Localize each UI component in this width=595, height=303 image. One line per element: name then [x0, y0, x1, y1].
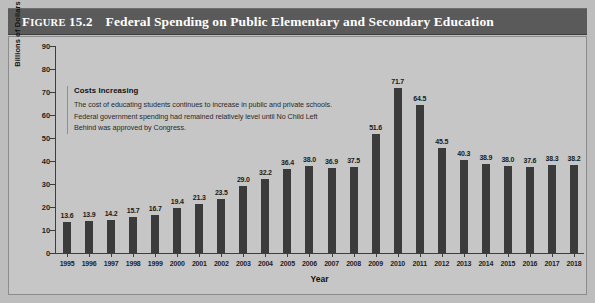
y-tick-label: 40 [10, 157, 50, 166]
bar [195, 204, 203, 253]
y-tick [50, 46, 55, 47]
figure-number-value: 15.2 [69, 14, 93, 29]
figure-title-bar: FIGURE 15.2 Federal Spending on Public E… [8, 8, 587, 35]
bar-value-label: 32.2 [252, 169, 278, 176]
x-tick [574, 253, 575, 257]
y-tick [50, 92, 55, 93]
x-tick [508, 253, 509, 257]
x-tick [309, 253, 310, 257]
bar-value-label: 16.7 [142, 205, 168, 212]
y-tick-label: 80 [10, 65, 50, 74]
x-tick [265, 253, 266, 257]
x-tick [89, 253, 90, 257]
bar [283, 169, 291, 253]
y-tick-label: 70 [10, 88, 50, 97]
bar-value-label: 64.5 [407, 95, 433, 102]
plot-area: Billions of Dollars Year 010203040506070… [55, 46, 584, 287]
bar-value-label: 71.7 [385, 78, 411, 85]
figure-number-word-first: F [22, 14, 30, 29]
y-tick-label: 0 [10, 249, 50, 258]
x-tick [332, 253, 333, 257]
chart-frame: Costs Increasing The cost of educating s… [8, 36, 587, 295]
y-tick-label: 90 [10, 42, 50, 51]
bar [416, 105, 424, 253]
bar [151, 215, 159, 253]
bar [217, 199, 225, 253]
x-tick [354, 253, 355, 257]
x-tick [530, 253, 531, 257]
bar [372, 134, 380, 253]
x-tick-label: 2018 [561, 260, 587, 267]
bar [482, 164, 490, 253]
bar [63, 222, 71, 253]
x-tick [155, 253, 156, 257]
bar [305, 166, 313, 253]
x-axis-title: Year [55, 274, 584, 284]
x-tick [133, 253, 134, 257]
y-tick [50, 161, 55, 162]
x-tick [199, 253, 200, 257]
y-tick [50, 230, 55, 231]
bar [438, 148, 446, 253]
bar [504, 166, 512, 253]
bar-value-label: 45.5 [429, 138, 455, 145]
bar-value-label: 38.2 [561, 155, 587, 162]
bar [394, 88, 402, 253]
bar-value-label: 29.0 [230, 176, 256, 183]
x-tick [442, 253, 443, 257]
y-tick-label: 60 [10, 111, 50, 120]
y-tick [50, 253, 55, 254]
bar [261, 179, 269, 253]
bar-value-label: 37.5 [341, 157, 367, 164]
figure-number-word-rest: IGURE [30, 17, 65, 28]
y-tick [50, 184, 55, 185]
x-tick [398, 253, 399, 257]
x-tick [486, 253, 487, 257]
x-tick [420, 253, 421, 257]
x-tick [221, 253, 222, 257]
y-tick-label: 10 [10, 226, 50, 235]
bar-value-label: 51.6 [363, 124, 389, 131]
x-tick [177, 253, 178, 257]
y-tick [50, 138, 55, 139]
bar [328, 168, 336, 253]
y-tick [50, 69, 55, 70]
bar [526, 167, 534, 253]
y-tick-label: 30 [10, 180, 50, 189]
x-tick [67, 253, 68, 257]
bar [107, 220, 115, 253]
bar [548, 165, 556, 253]
bar [460, 160, 468, 253]
x-tick [287, 253, 288, 257]
x-tick [243, 253, 244, 257]
y-tick-label: 20 [10, 203, 50, 212]
y-tick-label: 50 [10, 134, 50, 143]
bar-value-label: 23.5 [208, 189, 234, 196]
figure-number: FIGURE 15.2 [22, 14, 93, 30]
x-tick [376, 253, 377, 257]
bar [85, 221, 93, 253]
y-axis-line [55, 46, 56, 253]
x-tick [552, 253, 553, 257]
x-tick [464, 253, 465, 257]
bar [129, 217, 137, 253]
bar [239, 186, 247, 253]
x-tick [111, 253, 112, 257]
x-axis-line [55, 253, 584, 254]
y-tick [50, 115, 55, 116]
bar [173, 208, 181, 253]
bar [350, 167, 358, 253]
figure-container: FIGURE 15.2 Federal Spending on Public E… [0, 0, 595, 303]
figure-title: Federal Spending on Public Elementary an… [106, 14, 494, 30]
y-tick [50, 207, 55, 208]
bar [570, 165, 578, 253]
